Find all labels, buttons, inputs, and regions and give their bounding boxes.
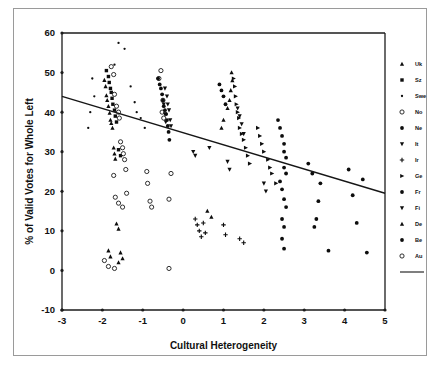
data-point (244, 146, 248, 150)
legend-item-ir[interactable]: Ir (400, 157, 420, 163)
x-tick-label: 0 (180, 315, 185, 326)
data-point (115, 120, 118, 123)
legend-marker-be (400, 238, 404, 242)
legend-item-be[interactable]: Be (400, 237, 422, 243)
data-point (108, 254, 112, 258)
x-tick-label: 1 (221, 315, 227, 326)
data-point (246, 154, 250, 158)
data-point (282, 197, 286, 201)
data-point (140, 117, 142, 119)
data-point (220, 88, 224, 92)
data-point (225, 106, 229, 110)
legend-item-fi[interactable]: Fi (400, 205, 421, 211)
legend-item-au[interactable]: Au (400, 253, 423, 259)
data-point (242, 138, 246, 142)
data-point (306, 162, 310, 166)
series-be (306, 162, 368, 255)
data-point (116, 260, 120, 264)
legend-marker-au (400, 254, 404, 258)
legend-item-de[interactable]: De (400, 221, 422, 227)
data-point (193, 154, 197, 158)
data-point (222, 94, 226, 98)
data-point (197, 229, 201, 233)
regression-line (62, 96, 385, 193)
legend-item-swe[interactable]: Swe (401, 93, 426, 99)
data-point (227, 98, 231, 102)
data-point (191, 150, 195, 154)
x-tick-mark (262, 308, 265, 311)
data-point (112, 266, 116, 270)
data-point (258, 134, 262, 138)
data-point (282, 142, 286, 146)
data-point (105, 98, 109, 102)
legend-item-it[interactable]: It (400, 141, 419, 147)
legend-item-no[interactable]: No (400, 109, 423, 115)
data-point (117, 116, 121, 120)
data-point (159, 68, 163, 72)
legend-marker-ir (400, 158, 404, 162)
data-point (113, 157, 117, 161)
data-point (145, 181, 149, 185)
series-ir (193, 217, 246, 245)
data-point (165, 95, 169, 99)
data-point (102, 258, 106, 262)
data-point (112, 145, 116, 149)
data-point (150, 205, 154, 209)
legend-marker-fr (400, 190, 404, 194)
legend-item-ne[interactable]: Ne (400, 125, 422, 131)
data-point (156, 77, 160, 81)
data-point (224, 102, 228, 106)
data-point (282, 150, 286, 154)
data-point (280, 134, 284, 138)
data-point (314, 217, 318, 221)
legend-item-ge[interactable]: Ge (400, 173, 422, 179)
legend-item-uk[interactable]: Uk (400, 61, 423, 67)
data-point (167, 130, 171, 134)
x-tick-label: 5 (382, 315, 388, 326)
data-point (221, 223, 225, 227)
data-point (221, 118, 225, 122)
data-point (134, 101, 136, 103)
axis-labels-group: -100102030405060-3-2-1012345Cultural Het… (24, 27, 388, 351)
legend-label: Fi (415, 205, 420, 211)
data-point (166, 102, 170, 106)
data-point (117, 148, 120, 151)
data-point (282, 225, 286, 229)
data-point (116, 201, 120, 205)
data-point (278, 179, 282, 183)
y-tick-mark (60, 229, 63, 232)
axes-group (60, 31, 386, 311)
data-point (106, 104, 110, 108)
x-tick-mark (303, 308, 306, 311)
data-point (167, 197, 171, 201)
data-point (316, 199, 320, 203)
data-point (284, 156, 288, 160)
data-point (280, 237, 284, 241)
data-point (268, 165, 272, 169)
data-point (87, 127, 89, 129)
data-point (106, 248, 110, 252)
data-point (163, 87, 167, 91)
legend-label: Swe (415, 93, 426, 99)
data-point (167, 108, 171, 112)
data-point (355, 221, 359, 225)
data-point (237, 237, 241, 241)
data-point (104, 84, 108, 88)
legend-label: Sz (415, 77, 422, 83)
data-point (234, 94, 238, 98)
data-point (125, 191, 129, 195)
data-point (205, 209, 209, 213)
legend-item-fr[interactable]: Fr (400, 189, 421, 195)
data-point (280, 217, 284, 221)
data-point (284, 172, 288, 176)
legend-marker-it (400, 142, 404, 146)
data-point (114, 114, 117, 117)
data-point (240, 122, 244, 126)
legend-label: Uk (415, 61, 423, 67)
legend-label: Be (415, 237, 422, 243)
data-point (93, 95, 95, 97)
y-axis-title: % of Valid Votes for Whole Left (24, 98, 35, 245)
legend-item-sz[interactable]: Sz (400, 77, 421, 83)
data-point (107, 75, 110, 78)
trendline-group (62, 96, 385, 193)
